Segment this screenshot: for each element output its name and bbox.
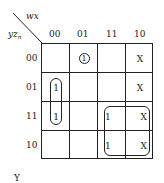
- group-loop-pair: [50, 78, 62, 125]
- cell-r3-c1: [70, 131, 98, 160]
- cell-r0-c1: 1: [70, 44, 98, 73]
- cell-r0-c3: X: [126, 44, 154, 73]
- row-header-01: 01: [26, 83, 37, 92]
- karnaugh-map-grid: 1 X 1 X 1 1 X 1 X: [41, 43, 153, 159]
- column-variable-label: wx: [26, 12, 39, 21]
- cell-r1-c1: [70, 73, 98, 102]
- cell-r0-c0: [42, 44, 70, 73]
- column-header-11: 11: [106, 30, 117, 39]
- row-header-11: 11: [26, 112, 37, 121]
- column-header-10: 10: [134, 30, 145, 39]
- cell-r1-c3: X: [126, 73, 154, 102]
- caption: Y: [14, 174, 20, 183]
- row-header-10: 10: [26, 141, 37, 150]
- group-loop-quad: [104, 106, 150, 156]
- row-variable-label: yzn: [8, 30, 22, 40]
- row-variable-text: yz: [8, 29, 18, 39]
- cell-r3-c0: [42, 131, 70, 160]
- cell-r1-c2: [98, 73, 126, 102]
- column-header-00: 00: [49, 30, 60, 39]
- cell-r0-c2: [98, 44, 126, 73]
- cell-r2-c1: [70, 102, 98, 131]
- circled-minterm: 1: [79, 53, 90, 64]
- row-variable-subscript: n: [18, 33, 22, 40]
- row-header-00: 00: [26, 54, 37, 63]
- column-header-01: 01: [77, 30, 88, 39]
